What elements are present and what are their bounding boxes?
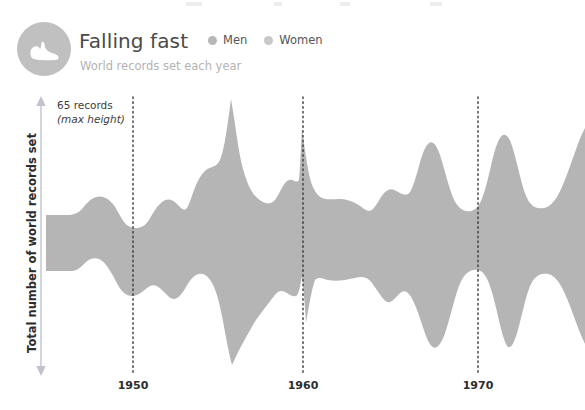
stream-band-total <box>46 99 585 365</box>
max-height-annotation: 65 records (max height) <box>57 98 125 126</box>
max-height-note: (max height) <box>57 112 125 126</box>
x-tick-label-1950: 1950 <box>118 379 149 392</box>
max-height-value: 65 records <box>57 98 125 112</box>
stream-band-group <box>46 99 585 365</box>
x-tick-label-1960: 1960 <box>288 379 319 392</box>
y-axis-title: Total number of world records set <box>25 118 39 368</box>
x-tick-label-1970: 1970 <box>463 379 494 392</box>
streamgraph-plot <box>0 0 585 410</box>
